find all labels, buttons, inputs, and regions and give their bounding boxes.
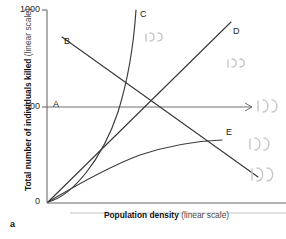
y-axis-label-soft: (linear scale) [23, 8, 33, 56]
pencil-mark-4-stroke3 [264, 138, 269, 150]
y-tick-label-500: 500 [2, 101, 40, 111]
x-axis-label: Population density (linear scale) [47, 210, 286, 220]
y-axis-label-bold: Total number of individuals killed [23, 59, 33, 191]
pencil-mark-3-stroke3 [272, 100, 277, 112]
y-tick-label-0: 0 [24, 196, 40, 206]
pencil-mark-3-stroke2 [263, 100, 268, 112]
chart-canvas [0, 0, 286, 239]
panel-letter: a [10, 219, 15, 229]
pencil-mark-2-stroke2 [232, 59, 236, 67]
series-label-E: E [226, 127, 232, 137]
y-axis-label: Total number of individuals killed (line… [23, 11, 33, 191]
series-line-C [48, 10, 136, 202]
series-label-C: C [140, 9, 147, 19]
y-tick-label-1000: 1000 [2, 4, 40, 14]
pencil-mark-4-stroke2 [255, 138, 260, 150]
pencil-mark-5-stroke3 [267, 168, 273, 181]
x-axis-label-soft: (linear scale) [181, 210, 229, 220]
series-label-D: D [233, 26, 240, 36]
pencil-mark-1-stroke3 [158, 33, 162, 41]
series-line-D [48, 22, 231, 202]
pencil-mark-2-stroke3 [240, 59, 244, 67]
series-line-E [48, 140, 222, 202]
pencil-mark-1-stroke2 [150, 33, 154, 41]
pencil-mark-5-stroke2 [257, 168, 263, 181]
series-label-A: A [53, 99, 59, 109]
series-label-B: B [64, 36, 70, 46]
figure-panel: 1000 500 0 A B C D E Total number of ind… [0, 0, 286, 239]
x-axis-label-bold: Population density [104, 210, 179, 220]
